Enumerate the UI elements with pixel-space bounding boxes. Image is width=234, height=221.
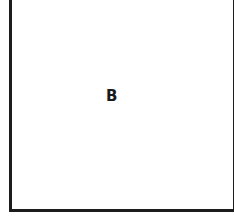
region-label: B — [106, 89, 117, 104]
region-box — [9, 0, 234, 212]
